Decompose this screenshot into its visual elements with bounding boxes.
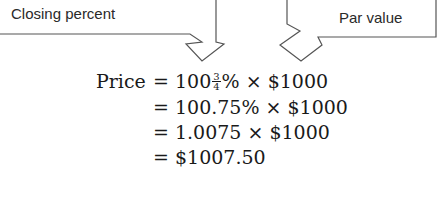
closing-percent-label: Closing percent bbox=[11, 5, 115, 22]
line-1-suffix: % × $1000 bbox=[222, 70, 329, 92]
line-1-prefix: = 100 bbox=[153, 70, 211, 92]
equation-line-1: = 10034% × $1000 bbox=[153, 70, 328, 93]
equation-lhs: Price bbox=[96, 70, 146, 92]
three-quarters-fraction: 34 bbox=[212, 72, 220, 91]
par-value-label: Par value bbox=[339, 9, 402, 26]
equation-line-2: = 100.75% × $1000 bbox=[153, 96, 348, 118]
equation-line-3: = 1.0075 × $1000 bbox=[153, 121, 330, 143]
equation-line-4: = $1007.50 bbox=[153, 146, 266, 168]
